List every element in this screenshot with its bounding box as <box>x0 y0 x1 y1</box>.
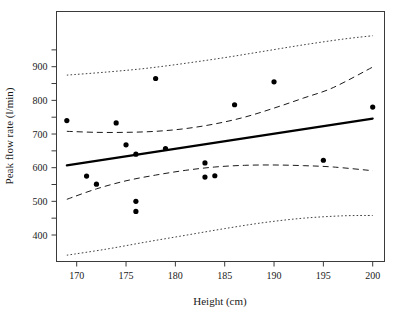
x-tick-label: 195 <box>316 270 331 281</box>
y-tick-label: 700 <box>33 129 48 140</box>
data-point <box>202 160 207 165</box>
data-point <box>153 76 158 81</box>
data-point <box>133 199 138 204</box>
x-tick-label: 185 <box>217 270 232 281</box>
data-point <box>212 173 217 178</box>
x-tick-label: 200 <box>365 270 380 281</box>
data-point <box>94 182 99 187</box>
chart-background <box>0 0 404 312</box>
x-axis-title: Height (cm) <box>193 295 247 308</box>
data-point <box>123 142 128 147</box>
data-point <box>321 158 326 163</box>
data-point <box>114 120 119 125</box>
data-point <box>202 175 207 180</box>
data-point <box>163 146 168 151</box>
x-tick-label: 175 <box>119 270 134 281</box>
data-point <box>370 104 375 109</box>
y-tick-label: 800 <box>33 95 48 106</box>
x-tick-label: 190 <box>267 270 282 281</box>
y-tick-label: 400 <box>33 230 48 241</box>
scatter-plot-svg: 170175180185190195200 400500600700800900… <box>0 0 404 312</box>
chart-figure: 170175180185190195200 400500600700800900… <box>0 0 404 312</box>
data-point <box>133 152 138 157</box>
data-point <box>133 209 138 214</box>
y-axis-title: Peak flow rate (l/min) <box>3 87 16 184</box>
data-point <box>232 102 237 107</box>
y-tick-label: 900 <box>33 61 48 72</box>
x-tick-label: 180 <box>168 270 183 281</box>
y-tick-label: 600 <box>33 162 48 173</box>
data-point <box>84 174 89 179</box>
data-point <box>64 118 69 123</box>
data-point <box>271 79 276 84</box>
y-tick-label: 500 <box>33 196 48 207</box>
x-tick-label: 170 <box>69 270 84 281</box>
